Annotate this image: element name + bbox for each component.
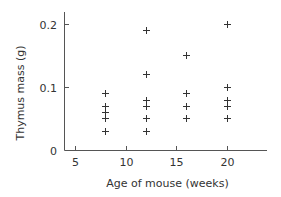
data-point-plus-marker	[143, 115, 150, 122]
data-point-plus-marker	[102, 115, 109, 122]
x-tick-label: 20	[221, 156, 235, 169]
x-ticks: 5101520	[72, 146, 235, 169]
x-axis-label: Age of mouse (weeks)	[106, 177, 229, 190]
data-point-plus-marker	[224, 21, 231, 28]
data-point-plus-marker	[183, 103, 190, 110]
axis-lines	[65, 12, 268, 151]
y-tick-label: 0	[50, 145, 57, 158]
data-point-plus-marker	[224, 97, 231, 104]
x-tick-label: 15	[170, 156, 184, 169]
data-point-plus-marker	[102, 103, 109, 110]
scatter-chart: 5101520 00.10.2 Age of mouse (weeks) Thy…	[0, 0, 281, 197]
data-point-plus-marker	[143, 128, 150, 135]
axes	[65, 12, 268, 151]
data-point-plus-marker	[143, 103, 150, 110]
data-point-plus-marker	[224, 115, 231, 122]
data-point-plus-marker	[183, 52, 190, 59]
data-point-plus-marker	[224, 103, 231, 110]
data-point-plus-marker	[102, 109, 109, 116]
data-point-plus-marker	[102, 90, 109, 97]
data-point-plus-marker	[143, 97, 150, 104]
data-point-plus-marker	[102, 128, 109, 135]
y-tick-label: 0.1	[40, 82, 58, 95]
y-axis-label: Thymus mass (g)	[14, 45, 27, 141]
y-tick-label: 0.2	[40, 19, 58, 32]
x-tick-label: 5	[72, 156, 79, 169]
data-point-plus-marker	[224, 84, 231, 91]
data-point-plus-marker	[183, 115, 190, 122]
data-points	[102, 21, 231, 135]
x-tick-label: 10	[120, 156, 134, 169]
data-point-plus-marker	[143, 71, 150, 78]
data-point-plus-marker	[143, 27, 150, 34]
data-point-plus-marker	[183, 90, 190, 97]
